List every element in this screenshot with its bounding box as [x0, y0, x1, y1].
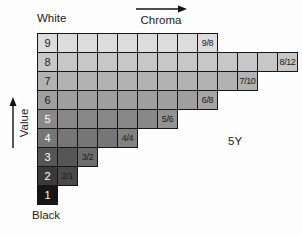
chip-cell: [157, 33, 178, 53]
chip-cell: [57, 109, 78, 129]
chip-cell: [57, 52, 78, 72]
chip-cell: [77, 33, 98, 53]
chip-cell: [77, 109, 98, 129]
chip-cell: [117, 52, 138, 72]
chip-cell: [177, 90, 198, 110]
chip-cell: [237, 52, 258, 72]
chip-cell: [117, 109, 138, 129]
chip-cell: [257, 52, 278, 72]
chip-cell: [97, 71, 118, 91]
chip-cell: [77, 71, 98, 91]
chip-cell: [77, 128, 98, 148]
chip-cell: [137, 90, 158, 110]
value-cell-7: 7: [37, 71, 58, 91]
chip-cell: [57, 33, 78, 53]
value-row-4: 44/4: [37, 128, 298, 148]
value-cell-2: 2: [37, 166, 58, 186]
value-row-9: 99/8: [37, 33, 298, 53]
value-row-5: 55/6: [37, 109, 298, 129]
chip-cell: [217, 71, 238, 91]
chip-cell: [137, 52, 158, 72]
chip-cell: [97, 52, 118, 72]
chroma-axis: Chroma: [130, 4, 192, 26]
value-chroma-grid: 99/888/1277/1066/855/644/433/222/11: [37, 33, 298, 205]
value-cell-9: 9: [37, 33, 58, 53]
chip-cell: [97, 90, 118, 110]
chip-cell: [97, 128, 118, 148]
chip-cell-8-12: 8/12: [277, 52, 298, 72]
value-cell-5: 5: [37, 109, 58, 129]
chroma-arrow-icon: [134, 4, 188, 13]
chip-cell: [157, 90, 178, 110]
chip-cell: [217, 52, 238, 72]
chip-cell: [157, 71, 178, 91]
value-row-1: 1: [37, 185, 298, 205]
value-cell-8: 8: [37, 52, 58, 72]
value-cell-1: 1: [37, 185, 58, 205]
chip-cell: [177, 52, 198, 72]
chip-cell: [137, 109, 158, 129]
chip-cell: [117, 90, 138, 110]
chip-cell: [177, 71, 198, 91]
value-row-2: 22/1: [37, 166, 298, 186]
chip-cell-9-8: 9/8: [197, 33, 218, 53]
chip-cell: [77, 90, 98, 110]
chroma-axis-label: Chroma: [130, 14, 192, 26]
chip-cell-5-6: 5/6: [157, 109, 178, 129]
value-row-8: 88/12: [37, 52, 298, 72]
value-cell-3: 3: [37, 147, 58, 167]
chip-cell: [77, 52, 98, 72]
chip-cell: [97, 109, 118, 129]
white-label: White: [37, 12, 66, 25]
chip-cell: [117, 71, 138, 91]
value-row-6: 66/8: [37, 90, 298, 110]
chip-cell: [57, 90, 78, 110]
value-cell-4: 4: [37, 128, 58, 148]
value-cell-6: 6: [37, 90, 58, 110]
chip-cell-3-2: 3/2: [77, 147, 98, 167]
chip-cell-7-10: 7/10: [237, 71, 258, 91]
hue-label: 5Y: [228, 135, 242, 148]
chip-cell: [177, 33, 198, 53]
black-label: Black: [32, 209, 60, 222]
chip-cell: [117, 33, 138, 53]
chip-cell: [57, 147, 78, 167]
chip-cell: [97, 33, 118, 53]
chip-cell: [137, 71, 158, 91]
chip-cell: [197, 52, 218, 72]
value-axis-label: Value: [18, 96, 32, 150]
chip-cell: [57, 71, 78, 91]
value-row-7: 77/10: [37, 71, 298, 91]
chip-cell: [57, 128, 78, 148]
chip-cell: [157, 52, 178, 72]
munsell-5y-chart: White Chroma Value 99/888/1277/1066/855/…: [0, 0, 302, 235]
chip-cell-4-4: 4/4: [117, 128, 138, 148]
value-row-3: 33/2: [37, 147, 298, 167]
chip-cell-6-8: 6/8: [197, 90, 218, 110]
chip-cell: [137, 33, 158, 53]
chip-cell-2-1: 2/1: [57, 166, 78, 186]
chip-cell: [197, 71, 218, 91]
